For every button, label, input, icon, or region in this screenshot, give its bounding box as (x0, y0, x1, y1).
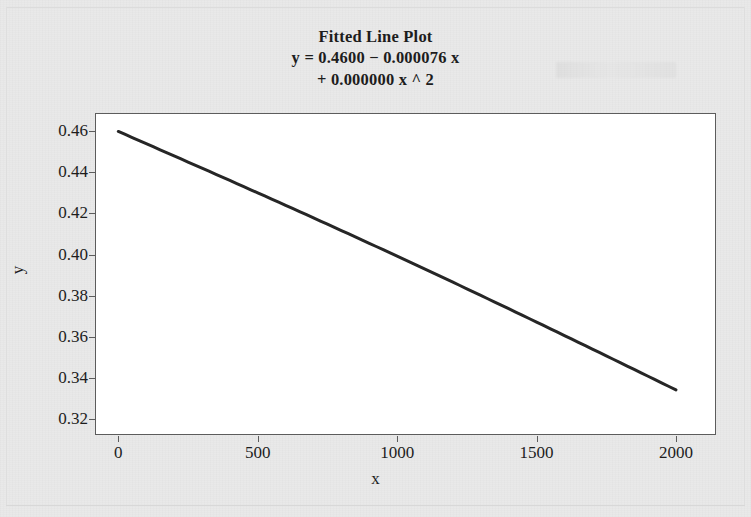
chart-title-line-1: Fitted Line Plot (0, 26, 751, 47)
page-border-bottom (6, 505, 745, 506)
fitted-line-svg (96, 114, 715, 434)
x-tick-label: 500 (245, 443, 271, 463)
chart-title-line-2: y = 0.4600 − 0.000076 x (0, 47, 751, 68)
chart-title-block: Fitted Line Plot y = 0.4600 − 0.000076 x… (0, 26, 751, 90)
x-tick-mark (537, 436, 538, 442)
y-axis-tick-labels: 0.320.340.360.380.400.420.440.46 (24, 0, 88, 517)
y-axis-title: y (8, 266, 28, 275)
y-tick-label: 0.36 (30, 327, 88, 347)
x-tick-label: 2000 (659, 443, 693, 463)
x-tick-mark (258, 436, 259, 442)
y-tick-mark (89, 213, 95, 214)
plot-area (95, 113, 716, 435)
y-tick-label: 0.44 (30, 162, 88, 182)
y-tick-label: 0.46 (30, 121, 88, 141)
x-tick-label: 1000 (380, 443, 414, 463)
y-tick-label: 0.38 (30, 286, 88, 306)
x-tick-mark (676, 436, 677, 442)
y-tick-label: 0.42 (30, 203, 88, 223)
y-tick-mark (89, 296, 95, 297)
y-tick-label: 0.32 (30, 409, 88, 429)
x-tick-mark (397, 436, 398, 442)
y-tick-mark (89, 419, 95, 420)
x-tick-mark (118, 436, 119, 442)
y-tick-mark (89, 255, 95, 256)
y-tick-mark (89, 131, 95, 132)
y-tick-label: 0.34 (30, 368, 88, 388)
x-tick-label: 1500 (520, 443, 554, 463)
page-border-top (6, 7, 745, 8)
x-axis-title: x (0, 469, 751, 489)
y-tick-mark (89, 172, 95, 173)
y-tick-mark (89, 337, 95, 338)
fitted-line-path (118, 131, 676, 389)
y-tick-mark (89, 378, 95, 379)
y-tick-label: 0.40 (30, 245, 88, 265)
chart-title-line-3: + 0.000000 x ^ 2 (0, 69, 751, 90)
x-tick-label: 0 (114, 443, 123, 463)
